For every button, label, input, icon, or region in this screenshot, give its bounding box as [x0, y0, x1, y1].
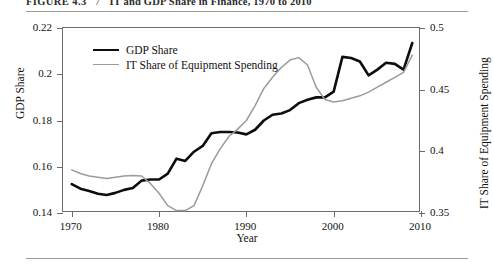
figure-title: IT and GDP Share in Finance, 1970 to 201…	[109, 0, 311, 7]
figure-root: FIGURE 4.3 / IT and GDP Share in Finance…	[0, 0, 494, 266]
legend-label: GDP Share	[126, 44, 178, 56]
legend-label: IT Share of Equipment Spending	[126, 59, 278, 71]
x-tick-label: 2010	[409, 220, 431, 232]
y-right-tick	[419, 213, 425, 214]
y-left-tick-label: 0.14	[0, 206, 52, 218]
y-left-tick-label: 0.2	[0, 67, 52, 79]
legend-swatch-icon	[93, 64, 119, 65]
y-right-tick-label: 0.35	[430, 206, 449, 218]
y-right-tick-label: 0.4	[430, 144, 444, 156]
y-left-tick-label: 0.22	[0, 21, 52, 33]
figure-caption: FIGURE 4.3 / IT and GDP Share in Finance…	[26, 0, 312, 7]
y-right-tick-label: 0.5	[430, 21, 444, 33]
caption-separator: /	[89, 0, 106, 7]
caption-rule-top	[26, 11, 468, 12]
footer-rule	[26, 258, 468, 259]
y-axis-right-title: IT Share of Equipment Spending	[478, 57, 490, 209]
legend-item: IT Share of Equipment Spending	[93, 57, 278, 72]
x-tick-label: 1990	[234, 220, 256, 232]
x-tick-label: 2000	[322, 220, 344, 232]
x-tick-label: 1980	[147, 220, 169, 232]
x-axis-title: Year	[0, 232, 494, 244]
chart-legend: GDP ShareIT Share of Equipment Spending	[93, 42, 278, 72]
legend-item: GDP Share	[93, 42, 278, 57]
y-left-tick	[57, 213, 63, 214]
y-left-tick-label: 0.16	[0, 160, 52, 172]
y-right-tick-label: 0.45	[430, 83, 449, 95]
y-left-tick-label: 0.18	[0, 114, 52, 126]
x-tick	[421, 211, 422, 217]
x-tick-label: 1970	[60, 220, 82, 232]
legend-swatch-icon	[93, 49, 119, 51]
figure-number: FIGURE 4.3	[26, 0, 87, 7]
